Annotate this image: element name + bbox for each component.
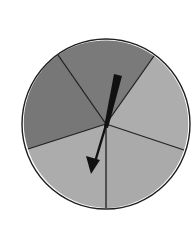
spinner-diagram xyxy=(0,0,194,230)
